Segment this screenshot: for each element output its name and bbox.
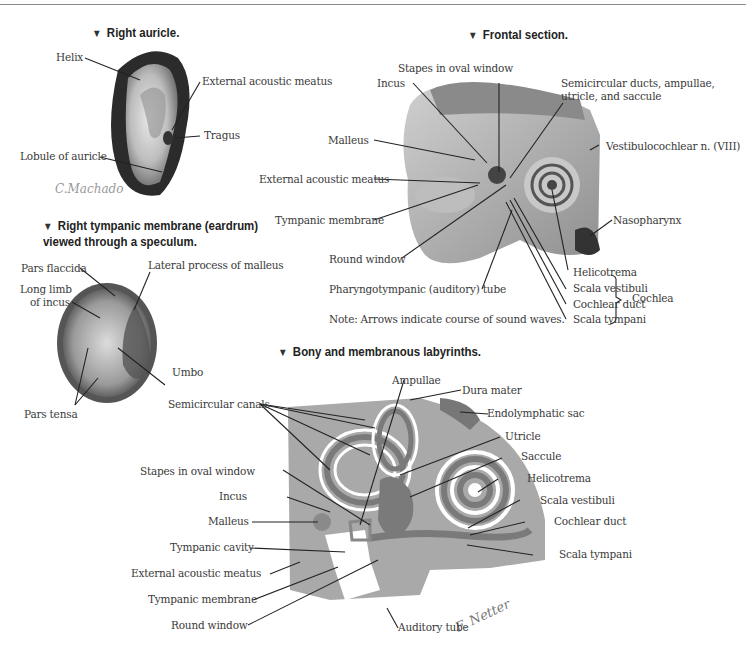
label-round-window: Round window bbox=[329, 253, 406, 265]
label-tympanic-cavity: Tympanic cavity bbox=[170, 541, 254, 553]
label-incus: Incus bbox=[377, 77, 405, 89]
label-saccule: Saccule bbox=[521, 450, 561, 462]
label-cochlear-duct: Cochlear duct bbox=[554, 515, 626, 527]
label-helicotrema: Helicotrema bbox=[573, 266, 637, 278]
label-scala-tympani: Scala tympani bbox=[573, 313, 646, 325]
figure-title-right-auricle: ▼Right auricle. bbox=[92, 25, 179, 40]
label-semicircular-canals: Semicircular canals bbox=[168, 398, 270, 410]
label-auditory-tube: Auditory tube bbox=[398, 621, 469, 633]
label-incus: Incus bbox=[219, 490, 247, 502]
svg-text:C.Machado: C.Machado bbox=[55, 182, 124, 196]
triangle-marker-icon: ▼ bbox=[278, 346, 288, 358]
label-helix: Helix bbox=[56, 51, 83, 63]
figure-title-labyrinths: ▼Bony and membranous labyrinths. bbox=[278, 344, 481, 359]
label-cochlea: Cochlea bbox=[632, 292, 673, 304]
label-lateral-process-of-malleus: Lateral process of malleus bbox=[148, 259, 284, 271]
label-dura-mater: Dura mater bbox=[462, 384, 521, 396]
label-external-acoustic-meatus: External acoustic meatus bbox=[259, 173, 389, 185]
note-sound-waves: Note: Arrows indicate course of sound wa… bbox=[329, 313, 565, 325]
label-round-window: Round window bbox=[171, 619, 248, 631]
label-ampullae: Ampullae bbox=[392, 374, 441, 386]
label-long-limb-of-incus: Long limb of incus bbox=[20, 283, 70, 309]
label-lobule-of-auricle: Lobule of auricle bbox=[20, 150, 107, 162]
label-malleus: Malleus bbox=[328, 134, 369, 146]
label-endolymphatic-sac: Endolymphatic sac bbox=[487, 407, 584, 419]
label-semicircular-ducts: Semicircular ducts, ampullae, utricle, a… bbox=[561, 77, 715, 103]
label-pharyngotympanic-tube: Pharyngotympanic (auditory) tube bbox=[329, 283, 506, 295]
label-tympanic-membrane: Tympanic membrane bbox=[275, 214, 384, 226]
label-external-acoustic-meatus: External acoustic meatus bbox=[131, 567, 261, 579]
label-nasopharynx: Nasopharynx bbox=[613, 214, 681, 226]
triangle-marker-icon: ▼ bbox=[92, 27, 102, 39]
label-stapes-in-oval-window: Stapes in oval window bbox=[398, 62, 513, 74]
triangle-marker-icon: ▼ bbox=[43, 220, 53, 232]
label-scala-vestibuli: Scala vestibuli bbox=[540, 494, 615, 506]
label-malleus: Malleus bbox=[208, 515, 249, 527]
label-helicotrema: Helicotrema bbox=[527, 472, 591, 484]
tympanic-membrane-illustration bbox=[57, 283, 157, 403]
triangle-marker-icon: ▼ bbox=[468, 29, 478, 41]
label-utricle: Utricle bbox=[505, 430, 541, 442]
label-stapes-in-oval-window: Stapes in oval window bbox=[140, 465, 255, 477]
label-pars-tensa: Pars tensa bbox=[24, 408, 77, 420]
label-tragus: Tragus bbox=[204, 129, 240, 141]
label-tympanic-membrane: Tympanic membrane bbox=[148, 593, 257, 605]
label-vestibulocochlear-nerve: Vestibulocochlear n. (VIII) bbox=[606, 140, 740, 152]
figure-title-tympanic-membrane: ▼Right tympanic membrane (eardrum) viewe… bbox=[43, 218, 258, 250]
label-pars-flaccida: Pars flaccida bbox=[21, 262, 87, 274]
label-scala-tympani: Scala tympani bbox=[559, 548, 632, 560]
label-external-acoustic-meatus: External acoustic meatus bbox=[202, 75, 332, 87]
label-umbo: Umbo bbox=[172, 366, 203, 378]
figure-title-frontal-section: ▼Frontal section. bbox=[468, 27, 568, 42]
